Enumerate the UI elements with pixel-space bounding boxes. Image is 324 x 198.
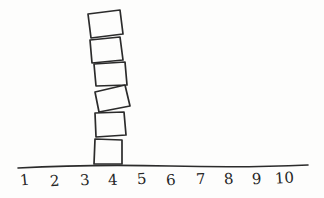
block-5	[95, 112, 126, 137]
tick-label-8: 8	[223, 172, 234, 188]
tick-label-6: 6	[165, 173, 176, 189]
tick-label-1: 1	[19, 173, 30, 189]
block-3	[94, 62, 127, 86]
block-1	[88, 10, 123, 38]
tick-label-3: 3	[79, 173, 90, 189]
number-line-axis	[18, 165, 308, 168]
tick-label-5: 5	[136, 172, 147, 188]
block-2	[90, 37, 123, 63]
block-6	[94, 139, 122, 164]
sketch-canvas: 1 2 3 4 5 6 7 8 9 10	[0, 0, 324, 198]
block-stack	[88, 10, 130, 164]
tick-label-4: 4	[108, 173, 118, 188]
tick-label-9: 9	[251, 172, 262, 188]
sketch-svg	[0, 0, 324, 198]
block-4	[95, 85, 130, 112]
tick-label-7: 7	[196, 172, 206, 187]
tick-label-2: 2	[49, 174, 60, 190]
tick-label-10: 10	[275, 170, 295, 186]
